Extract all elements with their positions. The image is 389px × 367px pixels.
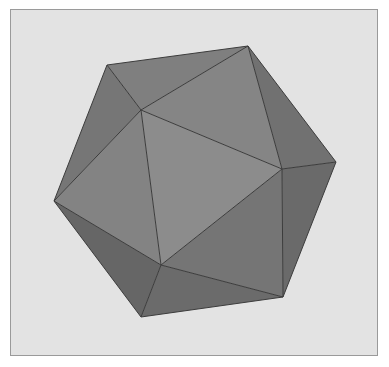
icosahedron-faces [54,46,336,317]
icosahedron-figure [0,0,389,367]
